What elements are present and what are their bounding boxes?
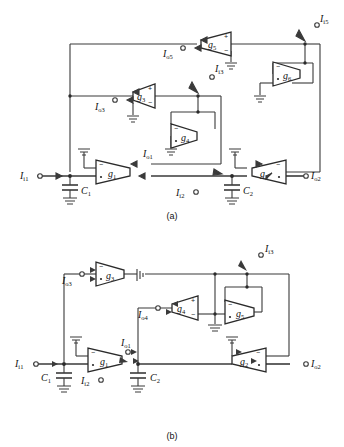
- arrow-io1: [131, 161, 137, 167]
- terminal-ii2-b: [99, 378, 104, 383]
- port-ii5[interactable]: Ii5: [315, 13, 329, 27]
- wires-b: [33, 274, 290, 364]
- ota-g6[interactable]: − g6: [273, 62, 300, 86]
- ota-g3[interactable]: + − g3: [133, 84, 155, 108]
- port-ii3-b[interactable]: Ii3: [259, 243, 274, 257]
- arrow-ii1-b: [52, 361, 58, 367]
- terminal-ii5: [315, 23, 320, 28]
- port-io2-b[interactable]: Io2: [304, 358, 321, 370]
- port-ii1-b[interactable]: Ii1: [14, 358, 38, 370]
- port-io3[interactable]: Io3: [94, 98, 117, 113]
- arrow-io5: [195, 45, 201, 51]
- figure-b-caption: (b): [167, 431, 178, 441]
- figure-a-caption: (a): [167, 211, 178, 221]
- capacitor-c2-b-label: C2: [150, 372, 160, 384]
- g4-minus-terminal: −: [174, 125, 178, 132]
- g2-plus-terminal: [278, 176, 280, 178]
- g1b-minus-terminal: −: [91, 349, 95, 356]
- g1-minus-terminal: −: [99, 161, 103, 168]
- ota-g4-b[interactable]: + − g4: [172, 296, 198, 320]
- g3b-minus-terminal: −: [99, 263, 103, 270]
- arrow-ii2: [213, 169, 222, 175]
- node-g5-feedback-b: [245, 285, 248, 288]
- ota-g3-b[interactable]: − g3: [96, 262, 124, 286]
- terminal-io3-b: [80, 272, 85, 277]
- g1-plus-terminal: [100, 176, 102, 178]
- arrow-io3: [127, 97, 133, 103]
- g4-plus-terminal: [175, 140, 177, 142]
- g5b-minus-terminal: −: [228, 301, 232, 308]
- terminal-ii2: [194, 190, 199, 195]
- terminal-ii1-b: [34, 362, 39, 367]
- g5b-plus-terminal: [229, 316, 231, 318]
- ota-g4[interactable]: − g4: [171, 124, 197, 148]
- capacitor-c1: C1: [62, 176, 91, 204]
- capacitor-c1-b-label: C1: [41, 372, 51, 384]
- capacitor-c2-b: C2: [130, 364, 160, 392]
- terminal-io2-b: [304, 362, 309, 367]
- g3b-plus-terminal: [100, 278, 102, 280]
- g6-plus-terminal: [277, 78, 279, 80]
- ground-g3-b-output: [137, 269, 143, 281]
- port-ii1[interactable]: Ii1: [19, 170, 42, 182]
- ground-g5: [225, 63, 237, 69]
- port-io1-b[interactable]: Io1: [120, 337, 131, 354]
- port-label-io3-b: Io3: [61, 275, 72, 287]
- port-io5[interactable]: Io5: [162, 46, 185, 60]
- port-label-ii3: Ii3: [214, 63, 223, 75]
- ota-g1[interactable]: − g1: [96, 160, 130, 184]
- g3-minus-terminal: −: [148, 99, 152, 106]
- arrow-ii1: [56, 173, 62, 179]
- terminal-io4-b: [156, 306, 161, 311]
- port-label-io4-b: Io4: [137, 309, 149, 321]
- port-label-io5: Io5: [162, 48, 173, 60]
- capacitor-c2: C2: [224, 176, 253, 204]
- ota-g1-b[interactable]: − g1: [88, 348, 122, 372]
- ground-symbols-b: [70, 269, 238, 343]
- ground-g3: [127, 116, 139, 122]
- ground-g4: [165, 149, 177, 155]
- g4b-minus-terminal: −: [191, 311, 195, 318]
- terminal-io2: [304, 174, 309, 179]
- arrow-ii3-b: [238, 260, 247, 271]
- node-c1: [68, 174, 72, 178]
- node-ii5: [303, 42, 306, 45]
- arrow-g3-in-b: [90, 267, 96, 273]
- g2-minus-terminal: −: [276, 161, 280, 168]
- terminal-ii3-b: [259, 253, 264, 258]
- circuit-diagram-b: − g1 − g2 − g3 + − g4 − g5 C1: [0, 224, 344, 447]
- node-c1-b: [62, 362, 66, 366]
- port-label-ii2: Ii2: [175, 187, 184, 199]
- port-label-io2-b: Io2: [310, 358, 321, 370]
- figure-b: − g1 − g2 − g3 + − g4 − g5 C1: [0, 224, 344, 447]
- node-g4-out-b: [213, 312, 216, 315]
- arrow-ii3: [189, 82, 198, 93]
- g1b-plus-terminal: [92, 364, 94, 366]
- g4b-plus-terminal: +: [191, 297, 195, 304]
- capacitor-c2-label: C2: [243, 185, 253, 197]
- signal-arrows-a: [56, 30, 305, 179]
- capacitor-c1-label: C1: [81, 185, 91, 197]
- arrow-g1-out: [139, 173, 145, 179]
- port-label-ii3-b: Ii3: [264, 243, 273, 255]
- node-ii3-b: [245, 272, 248, 275]
- port-label-ii5: Ii5: [319, 13, 328, 25]
- g3-plus-terminal: +: [148, 85, 152, 92]
- port-label-ii1: Ii1: [19, 170, 28, 182]
- terminal-ii1: [38, 174, 43, 179]
- g6-minus-terminal: −: [276, 63, 280, 70]
- port-label-ii2-b: Ii2: [80, 375, 89, 387]
- ground-g5-b: [208, 325, 222, 331]
- port-ii3[interactable]: Ii3: [210, 63, 224, 79]
- node-c2-b: [136, 362, 140, 366]
- figure-a: − g1 − g2 + − g3 − g4 + − g5 − g6: [0, 0, 344, 224]
- arrow-io1-b: [131, 349, 137, 355]
- port-ii2[interactable]: Ii2: [175, 187, 198, 199]
- ota-g5[interactable]: + − g5: [201, 32, 231, 56]
- port-label-ii1-b: Ii1: [14, 358, 23, 370]
- terminal-io5: [181, 46, 186, 51]
- g5-plus-terminal: +: [224, 33, 228, 40]
- ota-g5-b[interactable]: − g5: [225, 300, 254, 324]
- port-ii2-b[interactable]: Ii2: [80, 375, 103, 387]
- port-io1[interactable]: Io1: [142, 148, 153, 160]
